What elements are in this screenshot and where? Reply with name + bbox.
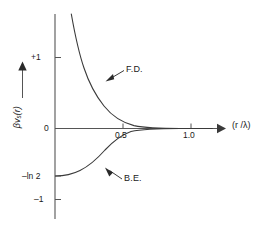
be-annotation-arrowhead <box>105 168 113 177</box>
y-axis-title-v: v <box>12 119 22 124</box>
y-tick-label-plus-one: +1 <box>31 53 41 62</box>
y-axis-title-argument: (r) <box>12 106 22 115</box>
x-tick-label-zero-five: 0.5 <box>115 131 127 140</box>
y-axis-title-text: βvs(r) <box>12 93 22 141</box>
x-axis-title: (r /λ) <box>232 121 251 130</box>
y-tick-label-minus-ln2: –ln 2 <box>22 172 40 181</box>
be-label: B.E. <box>124 174 142 183</box>
fd-label: F.D. <box>126 65 143 74</box>
y-axis-title: βvs(r) <box>6 94 28 146</box>
y-axis-title-beta: β <box>12 123 22 128</box>
y-axis-label-arrowhead <box>18 62 26 71</box>
fd-annotation-arrowhead <box>106 74 115 82</box>
y-tick-label-zero: 0 <box>44 124 49 133</box>
x-tick-label-one-zero: 1.0 <box>183 131 195 140</box>
y-tick-label-minus-one: –1 <box>34 195 43 204</box>
figure-root: +1 0 –ln 2 –1 0.5 1.0 (r /λ) βvs(r) F.D.… <box>0 0 277 231</box>
x-axis-arrowhead <box>217 124 226 133</box>
y-axis-title-subscript: s <box>15 115 22 118</box>
